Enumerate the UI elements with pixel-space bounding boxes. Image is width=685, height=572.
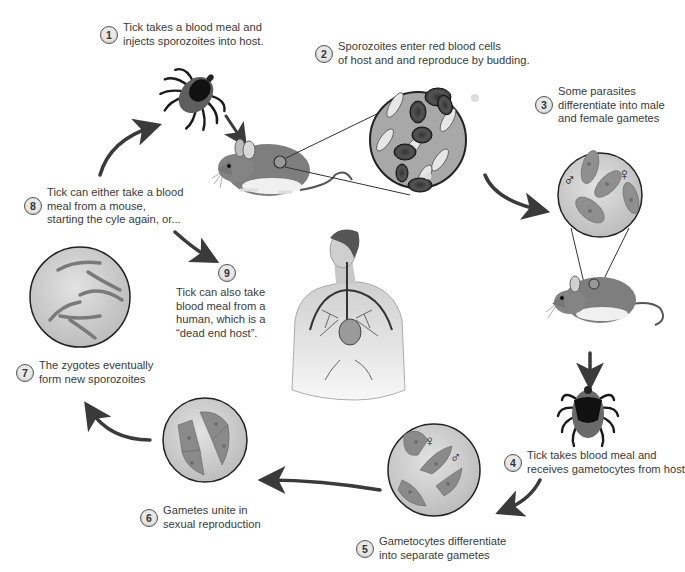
step-9: 9 Tick can also take blood meal from a h… <box>176 264 266 340</box>
step-2: 2 Sporozoites enter red blood cells of h… <box>315 40 530 67</box>
step-number-badge: 5 <box>356 540 374 558</box>
step-3: 3 Some parasites differentiate into male… <box>535 85 665 126</box>
mouse-host <box>212 139 352 196</box>
step-5: 5 Gametocytes differentiate into separat… <box>356 535 506 562</box>
step-6: 6 Gametes unite in sexual reproduction <box>140 504 261 531</box>
gametocytes-magnified: ♀ ♂ <box>388 424 480 516</box>
step-number-badge: 9 <box>218 264 236 282</box>
step-number-badge: 8 <box>24 197 42 215</box>
sporozoites-magnified <box>30 247 130 347</box>
step-number-badge: 6 <box>140 509 158 527</box>
step-text: Tick can either take a blood meal from a… <box>47 186 183 227</box>
sample-site <box>274 156 286 168</box>
arrow-tick-to-mouse <box>226 116 242 140</box>
gametes-magnified: ♂ ♀ <box>558 149 642 283</box>
blood-cells-magnified <box>370 88 479 192</box>
step-7: 7 The zygotes eventually form new sporoz… <box>16 359 153 386</box>
step-text: Gametocytes differentiate into separate … <box>379 535 506 562</box>
step-number-badge: 1 <box>100 26 118 44</box>
arrow-6-to-7 <box>90 410 150 440</box>
female-symbol-3: ♀ <box>618 165 631 184</box>
arrow-8-to-9 <box>175 232 210 258</box>
step-number-badge: 2 <box>315 45 333 63</box>
step-number-badge: 7 <box>16 364 34 382</box>
step-text: Tick takes blood meal and receives gamet… <box>527 449 685 476</box>
female-symbol-5: ♀ <box>424 432 435 449</box>
tick-engorged <box>558 386 618 446</box>
step-text: Tick can also take blood meal from a hum… <box>176 286 266 340</box>
step-text: The zygotes eventually form new sporozoi… <box>39 359 153 386</box>
step-number-badge: 3 <box>535 96 553 114</box>
step-text: Tick takes a blood meal and injects spor… <box>123 21 264 48</box>
arrow-5-to-6 <box>268 480 380 490</box>
arrow-4-to-5 <box>505 480 540 510</box>
step-text: Gametes unite in sexual reproduction <box>163 504 261 531</box>
human-dead-end-host <box>292 230 405 400</box>
male-symbol-3: ♂ <box>563 170 576 189</box>
step-text: Sporozoites enter red blood cells of hos… <box>338 40 530 67</box>
step-1: 1 Tick takes a blood meal and injects sp… <box>100 21 264 48</box>
mouse-host-2 <box>546 276 663 325</box>
step-8: 8 Tick can either take a blood meal from… <box>24 186 183 227</box>
tick-feeding <box>149 53 238 141</box>
step-text: Some parasites differentiate into male a… <box>558 85 665 126</box>
step-number-badge: 4 <box>504 454 522 472</box>
male-symbol-5: ♂ <box>450 448 461 465</box>
arrow-8-to-1 <box>100 127 152 175</box>
step-4: 4 Tick takes blood meal and receives gam… <box>504 449 685 476</box>
arrow-2-to-3 <box>485 175 540 210</box>
zygotes-magnified <box>163 398 247 482</box>
